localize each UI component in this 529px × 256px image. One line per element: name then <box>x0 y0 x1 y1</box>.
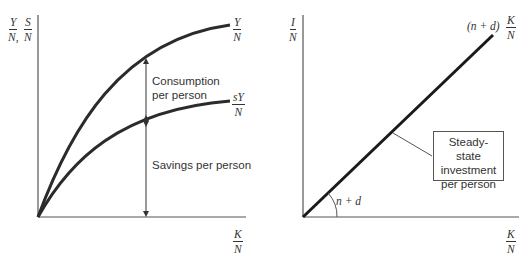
consumption-line2: per person <box>152 88 220 102</box>
rk-num: K <box>506 228 516 242</box>
savings-label: Savings per person <box>152 158 251 172</box>
savings-num: sY <box>232 91 245 105</box>
k-num: K <box>233 228 243 242</box>
savings-den: N <box>235 105 243 118</box>
y-num: Y <box>9 16 17 30</box>
investment-line-prefix: (n + d) <box>467 20 500 32</box>
steady-state-investment-box: Steady-state investment per person <box>433 131 504 181</box>
slope-label: n + d <box>336 195 361 207</box>
left-y-axis-label-s: S N <box>24 16 32 43</box>
diagram-canvas <box>0 0 529 256</box>
k-den: N <box>234 242 242 255</box>
y-den: N, <box>8 30 19 43</box>
line-k-num: K <box>506 14 516 28</box>
consumption-line1: Consumption <box>152 74 220 88</box>
output-den: N <box>233 30 241 43</box>
i-den: N <box>289 30 297 43</box>
i-num: I <box>290 16 296 30</box>
left-y-axis-label-y: Y N, <box>8 16 19 43</box>
line-k-den: N <box>507 28 515 41</box>
output-per-person-curve <box>38 25 230 217</box>
box-line2: investment <box>438 163 499 177</box>
savings-curve-label: sY N <box>232 91 245 118</box>
left-x-axis-label: K N <box>233 228 243 255</box>
right-y-axis-label: I N <box>289 16 297 43</box>
s-den: N <box>24 30 32 43</box>
investment-line-frac: K N <box>506 14 516 41</box>
consumption-label: Consumption per person <box>152 74 220 102</box>
output-curve-label: Y N <box>233 16 241 43</box>
rk-den: N <box>507 242 515 255</box>
box-line1: Steady-state <box>438 135 499 163</box>
box-leader-line <box>393 133 432 156</box>
s-num: S <box>24 16 32 30</box>
output-num: Y <box>233 16 241 30</box>
box-line3: per person <box>438 177 499 191</box>
right-x-axis-label: K N <box>506 228 516 255</box>
